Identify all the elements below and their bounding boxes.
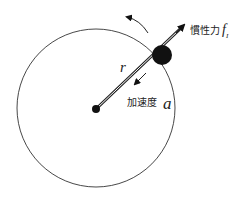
inertial-force-subscript: I [226,32,228,40]
center-pivot [92,105,100,113]
inertial-force-arrow [176,25,184,33]
inertial-force-label: 慣性力 [190,25,220,36]
acceleration-symbol: a [163,95,172,112]
radius-label: r [120,60,126,75]
rotating-mass-diagram: r 加速度 a 慣性力fI [0,0,243,203]
rotation-direction-arrow [127,17,148,33]
acceleration-arrow [135,73,146,84]
inertial-force-label-group: 慣性力fI [190,21,228,40]
mass-ball [152,45,172,65]
acceleration-label: 加速度 [127,98,157,108]
